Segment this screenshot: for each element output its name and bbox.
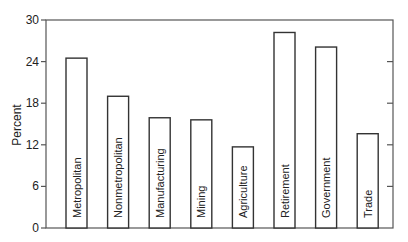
y-tick-label: 30 — [26, 13, 40, 27]
y-tick-label: 24 — [26, 55, 40, 69]
bars: MetropolitanNonmetropolitanManufacturing… — [66, 32, 378, 228]
y-tick-label: 12 — [26, 138, 40, 152]
y-tick-label: 18 — [26, 96, 40, 110]
bar-retirement: Retirement — [274, 32, 295, 228]
bar-label: Manufacturing — [154, 148, 166, 218]
y-tick-label: 0 — [32, 221, 39, 235]
bar-metropolitan: Metropolitan — [66, 58, 87, 228]
plot-frame — [46, 20, 393, 228]
bar-government: Government — [316, 47, 337, 228]
bar-nonmetropolitan: Nonmetropolitan — [108, 96, 129, 228]
bar-label: Trade — [362, 190, 374, 218]
bar-label: Nonmetropolitan — [112, 137, 124, 218]
bar-trade: Trade — [357, 134, 378, 228]
bar-chart: 0612182430 MetropolitanNonmetropolitanMa… — [0, 0, 408, 242]
bar-manufacturing: Manufacturing — [149, 118, 170, 228]
bar-label: Mining — [195, 186, 207, 218]
bar-label: Metropolitan — [71, 157, 83, 218]
y-axis-title: Percent — [10, 104, 24, 146]
plot-border — [46, 20, 393, 228]
bar-agriculture: Agriculture — [232, 147, 253, 228]
bar-label: Retirement — [279, 164, 291, 218]
y-tick-label: 6 — [32, 179, 39, 193]
bar-mining: Mining — [191, 120, 212, 228]
bar-label: Agriculture — [237, 165, 249, 218]
bar-label: Government — [320, 157, 332, 218]
